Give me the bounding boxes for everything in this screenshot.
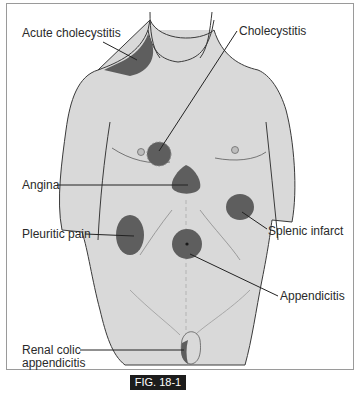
nipple-left (138, 149, 145, 156)
region-cholecystitis (147, 142, 171, 166)
label-acute-cholecystitis: Acute cholecystitis (22, 26, 121, 40)
region-splenic-infarct (226, 194, 254, 220)
label-renal-colic-appendicitis: appendicitis (22, 356, 85, 370)
nipple-right (232, 147, 239, 154)
label-angina: Angina (22, 178, 59, 192)
label-splenic-infarct: Splenic infarct (268, 224, 343, 238)
label-cholecystitis: Cholecystitis (239, 24, 306, 38)
label-appendicitis: Appendicitis (280, 289, 345, 303)
label-renal-colic: Renal colic (22, 343, 81, 357)
label-pleuritic-pain: Pleuritic pain (22, 227, 91, 241)
umbilicus (185, 242, 188, 245)
torso-body (59, 20, 294, 365)
figure-caption: FIG. 18-1 (130, 375, 186, 390)
